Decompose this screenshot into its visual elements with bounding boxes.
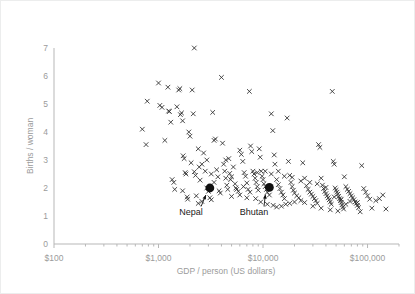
x-axis-tick-labels: $100$1,000$10,000$100,000 — [45, 253, 386, 263]
data-point-marker — [225, 187, 230, 192]
data-point-marker — [272, 153, 277, 158]
annotation-label-bhutan: Bhutan — [240, 207, 269, 217]
data-point-marker — [260, 174, 265, 179]
data-point-marker — [219, 75, 224, 80]
data-point-marker — [192, 46, 197, 51]
data-point-marker — [233, 182, 238, 187]
data-point-marker — [342, 175, 347, 180]
y-tick-label: 6 — [43, 71, 48, 81]
x-tick-label: $10,000 — [248, 253, 279, 263]
data-point-marker — [193, 173, 198, 178]
data-point-marker — [265, 202, 270, 207]
data-point-marker — [279, 204, 284, 209]
data-point-marker — [267, 193, 272, 198]
data-point-marker — [243, 174, 248, 179]
y-tick-label: 1 — [43, 211, 48, 221]
data-point-marker — [180, 119, 185, 124]
data-point-marker — [189, 161, 194, 166]
data-point-marker — [270, 128, 275, 133]
data-point-marker — [276, 169, 281, 174]
data-point-marker — [239, 152, 244, 157]
data-point-marker — [234, 186, 239, 191]
data-point-marker — [286, 159, 291, 164]
data-point-marker — [213, 137, 218, 142]
data-point-marker — [196, 147, 201, 152]
x-axis-title: GDP / person (US dollars) — [177, 266, 276, 276]
data-point-marker — [370, 206, 375, 211]
data-point-marker — [220, 141, 225, 146]
data-point-marker — [209, 172, 214, 177]
data-point-marker — [240, 159, 245, 164]
data-point-marker — [188, 134, 193, 139]
data-point-marker — [290, 184, 295, 189]
data-point-marker — [198, 178, 203, 183]
data-point-marker — [302, 176, 307, 181]
data-point-marker — [192, 169, 197, 174]
data-point-marker — [254, 180, 259, 185]
data-point-marker — [248, 144, 253, 149]
scatter-plot-figure: 01234567 $100$1,000$10,000$100,000 Nepal… — [0, 0, 415, 294]
data-point-marker — [231, 165, 236, 170]
data-point-marker — [381, 193, 386, 198]
data-point-marker — [156, 81, 161, 86]
data-point-marker — [384, 207, 389, 212]
data-point-marker — [282, 174, 287, 179]
data-point-marker — [297, 196, 302, 201]
y-axis-title: Births / woman — [25, 118, 35, 174]
plot-canvas: 01234567 $100$1,000$10,000$100,000 Nepal… — [1, 1, 415, 294]
data-point-marker — [332, 195, 337, 200]
data-point-marker — [247, 89, 252, 94]
data-point-marker — [191, 112, 196, 117]
data-point-marker — [246, 187, 251, 192]
data-point-marker — [249, 149, 254, 154]
y-tick-label: 5 — [43, 99, 48, 109]
data-point-marker — [205, 158, 210, 163]
data-point-marker — [178, 86, 183, 91]
data-point-marker — [241, 184, 246, 189]
data-point-marker — [290, 175, 295, 180]
data-point-marker — [358, 210, 363, 215]
data-point-marker — [222, 169, 227, 174]
data-point-marker — [319, 206, 324, 211]
data-point-marker — [212, 180, 217, 185]
data-point-marker — [223, 176, 228, 181]
data-point-marker — [315, 182, 320, 187]
data-point-marker — [292, 200, 297, 205]
data-point-marker — [238, 148, 243, 153]
data-point-marker — [300, 161, 305, 166]
data-point-marker — [216, 175, 221, 180]
data-point-marker — [175, 105, 180, 110]
data-point-marker — [214, 168, 219, 173]
data-point-marker — [319, 176, 324, 181]
data-point-marker — [160, 105, 165, 110]
data-point-marker — [245, 196, 250, 201]
data-point-marker — [299, 179, 304, 184]
data-point-marker — [200, 162, 205, 167]
data-point-marker — [140, 127, 145, 132]
data-point-marker — [274, 177, 279, 182]
annotation-label-nepal: Nepal — [179, 207, 203, 217]
data-point-marker — [359, 163, 364, 168]
data-point-marker — [210, 110, 215, 115]
data-point-marker — [224, 183, 229, 188]
y-tick-label: 7 — [43, 43, 48, 53]
data-point-marker — [229, 194, 234, 199]
y-tick-label: 3 — [43, 155, 48, 165]
data-point-marker — [307, 180, 312, 185]
data-point-marker — [283, 202, 288, 207]
y-tick-label: 4 — [43, 127, 48, 137]
data-point-marker — [330, 89, 335, 94]
highlighted-point-bhutan — [265, 183, 274, 192]
y-tick-label: 2 — [43, 183, 48, 193]
data-point-marker — [145, 99, 150, 104]
data-point-marker — [336, 209, 341, 214]
data-point-marker — [328, 208, 333, 213]
data-point-marker — [144, 142, 149, 147]
data-point-group — [140, 46, 388, 214]
data-point-marker — [263, 169, 268, 174]
data-point-marker — [259, 169, 264, 174]
data-point-marker — [289, 180, 294, 185]
data-point-marker — [253, 196, 258, 201]
data-point-marker — [201, 151, 206, 156]
y-tick-label: 0 — [43, 239, 48, 249]
